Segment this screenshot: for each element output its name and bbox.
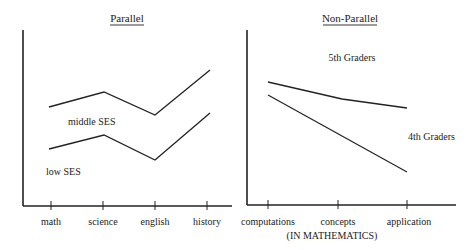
xtick-label-history: history xyxy=(193,216,221,227)
fifth-graders-line xyxy=(268,82,407,108)
x-axis-label: (IN MATHEMATICS) xyxy=(287,230,378,242)
xtick-label-concepts: concepts xyxy=(321,216,356,227)
non-parallel-chart: Non-Parallel 5th Graders 4th Graders com… xyxy=(241,12,456,242)
xtick-label-computations: computations xyxy=(241,216,295,227)
fourth-graders-line xyxy=(268,95,407,172)
xtick-label-english: english xyxy=(141,216,170,227)
xtick-label-application: application xyxy=(387,216,431,227)
fourth-graders-label: 4th Graders xyxy=(408,131,455,142)
xtick-label-math: math xyxy=(41,216,61,227)
low-ses-label: low SES xyxy=(46,166,81,177)
middle-ses-line xyxy=(49,70,210,115)
xtick-label-science: science xyxy=(88,216,118,227)
non-parallel-title: Non-Parallel xyxy=(322,12,378,24)
middle-ses-label: middle SES xyxy=(68,116,116,127)
parallel-title: Parallel xyxy=(110,12,144,24)
parallel-chart: Parallel middle SES low SES math science… xyxy=(23,12,232,227)
figure: Parallel middle SES low SES math science… xyxy=(0,0,476,250)
fifth-graders-label: 5th Graders xyxy=(329,52,376,63)
